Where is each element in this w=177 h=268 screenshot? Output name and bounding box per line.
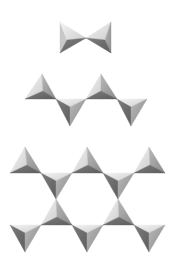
tetrahedron-up-icon [103, 199, 134, 225]
tetrahedron-down-icon [10, 225, 41, 252]
tetrahedron-up-icon [134, 147, 165, 173]
tetrahedron-up-icon [25, 74, 56, 99]
single-chain-group [25, 74, 147, 126]
tetrahedron-up-icon [10, 147, 41, 173]
tetrahedron-left-icon [86, 22, 111, 53]
tetrahedra-diagram [0, 0, 177, 268]
tetrahedron-down-icon [41, 173, 72, 199]
tetrahedron-up-icon [86, 74, 117, 99]
tetrahedron-down-icon [117, 99, 147, 126]
tetrahedron-down-icon [134, 225, 165, 252]
tetrahedron-down-icon [56, 99, 86, 126]
tetrahedron-up-icon [72, 147, 103, 173]
tetrahedron-up-icon [41, 199, 72, 225]
tetrahedron-down-icon [72, 225, 103, 252]
dimer-group [60, 22, 111, 53]
double-chain-group [10, 147, 165, 252]
tetrahedron-down-icon [103, 173, 134, 199]
tetrahedron-right-icon [60, 22, 86, 53]
